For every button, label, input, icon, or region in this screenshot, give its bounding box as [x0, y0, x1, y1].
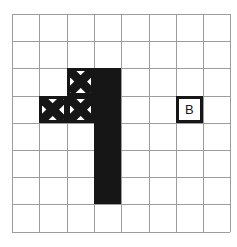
grid-line-horizontal	[12, 177, 230, 178]
puzzle-figure: B	[0, 0, 237, 247]
grid-line-horizontal	[12, 150, 230, 151]
labeled-square-b: B	[176, 96, 203, 123]
grid-line-horizontal	[12, 123, 230, 124]
grid-board: B	[12, 14, 230, 232]
x-cross-icon	[70, 99, 91, 120]
x-cross-icon	[42, 99, 63, 120]
x-square-left	[39, 96, 66, 123]
grid-line-horizontal	[12, 68, 230, 69]
square-label-text: B	[185, 103, 194, 116]
grid-line-horizontal	[12, 204, 230, 205]
x-cross-icon	[70, 71, 91, 92]
grid-line-vertical	[230, 14, 231, 232]
grid-line-horizontal	[12, 14, 230, 15]
x-square-top	[67, 68, 94, 95]
grid-line-horizontal	[12, 41, 230, 42]
grid-line-horizontal	[12, 232, 230, 233]
x-square-middle	[67, 96, 94, 123]
black-bar	[94, 68, 121, 204]
